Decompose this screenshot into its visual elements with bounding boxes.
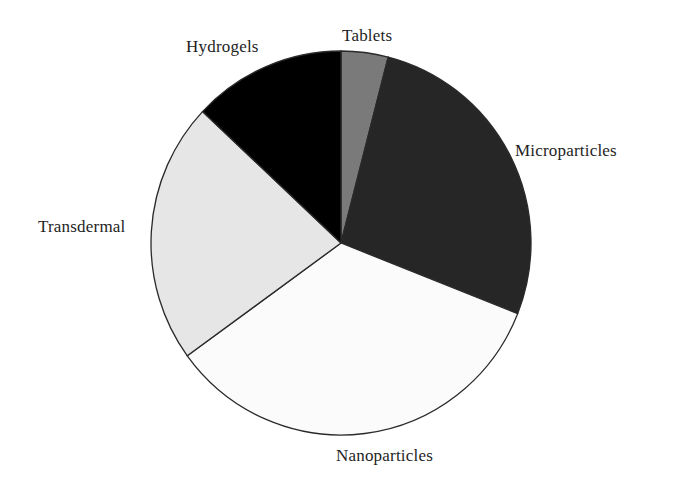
label-hydrogels: Hydrogels bbox=[186, 38, 259, 55]
label-microparticles: Microparticles bbox=[515, 142, 617, 159]
label-transdermal: Transdermal bbox=[38, 218, 126, 235]
pie-chart-plot bbox=[0, 0, 674, 486]
label-nanoparticles: Nanoparticles bbox=[336, 447, 433, 464]
label-tablets: Tablets bbox=[342, 27, 392, 44]
pie-chart: Hydrogels Tablets Microparticles Transde… bbox=[0, 0, 674, 486]
